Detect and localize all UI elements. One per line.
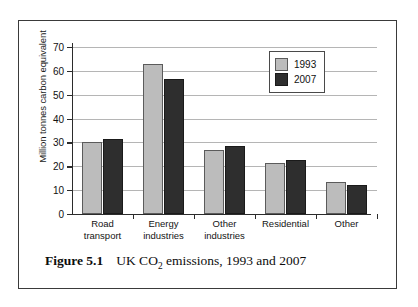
figure-caption: Figure 5.1UK CO2 emissions, 1993 and 200… xyxy=(45,253,306,271)
y-tick-label-70: 70 xyxy=(53,42,64,53)
legend-item-1993: 1993 xyxy=(275,58,316,71)
y-tick-50 xyxy=(67,95,72,96)
chart-area: Million tonnes carbon equivalent 0102030… xyxy=(19,21,398,243)
bar-2007-3 xyxy=(286,160,307,214)
figure-caption-label: Figure 5.1 xyxy=(45,253,103,268)
y-tick-label-10: 10 xyxy=(53,185,64,196)
x-axis-line xyxy=(72,214,371,215)
y-tick-label-50: 50 xyxy=(53,89,64,100)
y-tick-label-40: 40 xyxy=(53,113,64,124)
gridline-50 xyxy=(73,95,377,96)
caption-part-after: emissions, 1993 and 2007 xyxy=(163,253,307,268)
bar-1993-1 xyxy=(143,64,164,214)
bar-2007-2 xyxy=(225,146,246,214)
caption-part-before: UK CO xyxy=(116,253,158,268)
y-axis-line xyxy=(72,43,73,214)
y-tick-30 xyxy=(67,142,72,143)
legend-swatch-2007 xyxy=(275,73,288,86)
y-tick-label-20: 20 xyxy=(53,161,64,172)
gridline-40 xyxy=(73,119,377,120)
category-label-4: Other xyxy=(310,218,383,230)
legend-swatch-1993 xyxy=(275,58,288,71)
y-tick-40 xyxy=(67,119,72,120)
bar-1993-0 xyxy=(82,142,103,214)
bar-2007-1 xyxy=(164,79,185,215)
y-tick-label-0: 0 xyxy=(58,209,64,220)
y-tick-label-30: 30 xyxy=(53,137,64,148)
legend: 1993 2007 xyxy=(269,51,325,93)
legend-label-2007: 2007 xyxy=(294,74,316,85)
y-tick-20 xyxy=(67,166,72,167)
legend-label-1993: 1993 xyxy=(294,59,316,70)
y-axis-title: Million tonnes carbon equivalent xyxy=(37,12,48,182)
figure-caption-text: UK CO2 emissions, 1993 and 2007 xyxy=(116,253,306,268)
top-text-fragment xyxy=(14,0,134,10)
y-tick-70 xyxy=(67,47,72,48)
gridline-60 xyxy=(73,71,377,72)
gridline-70 xyxy=(73,47,377,48)
figure-box: Million tonnes carbon equivalent 0102030… xyxy=(18,20,397,289)
bar-2007-4 xyxy=(347,185,368,214)
y-tick-label-60: 60 xyxy=(53,65,64,76)
bar-1993-3 xyxy=(265,163,286,214)
y-tick-60 xyxy=(67,71,72,72)
bar-2007-0 xyxy=(103,139,124,214)
y-tick-0 xyxy=(67,214,72,215)
legend-item-2007: 2007 xyxy=(275,73,316,86)
y-tick-10 xyxy=(67,190,72,191)
plot-area: 010203040506070 Road transportEnergy ind… xyxy=(72,47,377,214)
bar-1993-2 xyxy=(204,150,225,214)
bar-1993-4 xyxy=(326,182,347,214)
